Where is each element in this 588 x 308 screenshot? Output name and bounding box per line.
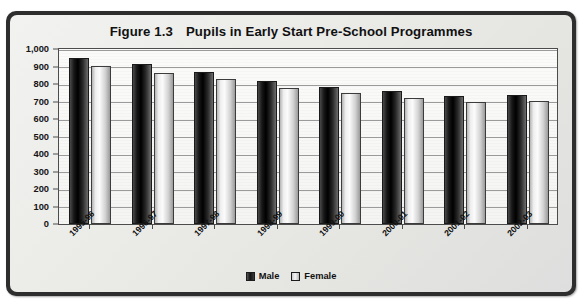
- y-tick-label: 200: [33, 184, 49, 194]
- x-tick-mark: [339, 225, 340, 229]
- y-tick-label: 0: [44, 219, 49, 229]
- y-tick-label: 600: [33, 114, 49, 124]
- figure-number: Figure 1.3: [110, 24, 173, 39]
- bar-group: [194, 49, 236, 224]
- chart-legend: MaleFemale: [10, 271, 572, 281]
- x-tick-mark: [152, 225, 153, 229]
- dark-gradient-swatch: [246, 272, 255, 281]
- legend-label-female: Female: [304, 271, 336, 281]
- bar-group: [132, 49, 174, 224]
- bar-male-1998-99: [257, 81, 277, 225]
- x-tick-mark: [527, 225, 528, 229]
- x-axis: 1995-961996-971997-981998-991999-002000-…: [58, 225, 558, 275]
- y-tick-label: 400: [33, 149, 49, 159]
- bar-male-1999-00: [319, 87, 339, 224]
- bar-female-1997-98: [216, 79, 236, 224]
- y-tick-label: 100: [33, 202, 49, 212]
- legend-item-female: Female: [291, 271, 336, 281]
- bar-group: [444, 49, 486, 224]
- x-tick-mark: [214, 225, 215, 229]
- bar-male-2000-01: [382, 91, 402, 224]
- legend-label-male: Male: [259, 271, 280, 281]
- bar-female-1998-99: [279, 88, 299, 225]
- bar-male-1997-98: [194, 72, 214, 224]
- figure-frame: Figure 1.3Pupils in Early Start Pre-Scho…: [6, 11, 576, 296]
- light-gradient-swatch: [291, 272, 300, 281]
- x-tick-mark: [402, 225, 403, 229]
- plot-area: [58, 48, 558, 225]
- bar-female-2002-03: [529, 101, 549, 224]
- y-tick-label: 500: [33, 132, 49, 142]
- chart-title: Figure 1.3Pupils in Early Start Pre-Scho…: [10, 24, 572, 39]
- x-tick-mark: [277, 225, 278, 229]
- y-tick-label: 700: [33, 97, 49, 107]
- y-axis: 01002003004005006007008009001,000: [10, 48, 58, 225]
- bar-male-1995-96: [69, 58, 89, 224]
- figure-title-text: Pupils in Early Start Pre-School Program…: [186, 24, 472, 39]
- figure-panel: Figure 1.3Pupils in Early Start Pre-Scho…: [10, 15, 572, 292]
- bar-female-2001-02: [466, 102, 486, 224]
- y-tick-label: 1,000: [26, 44, 49, 54]
- x-tick-mark: [89, 225, 90, 229]
- bar-female-1999-00: [341, 93, 361, 224]
- y-tick-label: 300: [33, 167, 49, 177]
- bar-female-1995-96: [91, 66, 111, 224]
- bar-group: [507, 49, 549, 224]
- bar-male-1996-97: [132, 64, 152, 224]
- y-tick-label: 900: [33, 62, 49, 72]
- y-tick-label: 800: [33, 79, 49, 89]
- bar-group: [257, 49, 299, 224]
- x-tick-mark: [464, 225, 465, 229]
- bar-group: [382, 49, 424, 224]
- bar-female-2000-01: [404, 98, 424, 224]
- bar-male-2001-02: [444, 96, 464, 224]
- bar-group: [319, 49, 361, 224]
- bar-female-1996-97: [154, 73, 174, 224]
- bar-group: [69, 49, 111, 224]
- legend-item-male: Male: [246, 271, 280, 281]
- bar-male-2002-03: [507, 95, 527, 225]
